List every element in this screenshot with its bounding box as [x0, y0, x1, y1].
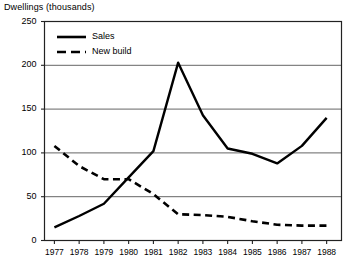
chart-plot-svg [0, 0, 355, 271]
gridlines-group [45, 22, 342, 197]
y-tick-label: 0 [13, 235, 37, 245]
legend-label-sales: Sales [92, 31, 115, 41]
series-lines [54, 63, 326, 228]
plot-frame [45, 22, 342, 241]
chart-container: Dwellings (thousands) 050100150200250 19… [0, 0, 355, 271]
x-tick-label: 1988 [312, 247, 342, 257]
plot-border [45, 22, 342, 241]
y-tick-label: 150 [13, 103, 37, 113]
legend-sample-lines [57, 37, 86, 52]
y-tick-label: 200 [13, 59, 37, 69]
y-tick-label: 250 [13, 16, 37, 26]
legend-label-new-build: New build [92, 46, 132, 56]
series-line-sales [54, 63, 326, 228]
y-tick-label: 100 [13, 147, 37, 157]
y-tick-label: 50 [13, 191, 37, 201]
